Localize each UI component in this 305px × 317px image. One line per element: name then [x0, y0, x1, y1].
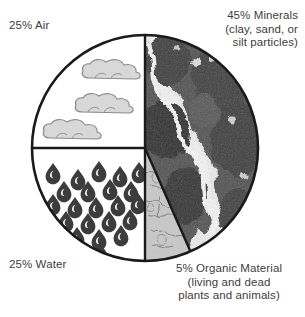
pie-slice-water [30, 148, 148, 268]
label-organic: 5% Organic Material (living and dead pla… [155, 262, 303, 303]
soil-composition-figure: 25% Air 45% Minerals (clay, sand, or sil… [0, 0, 305, 317]
label-water: 25% Water [9, 258, 66, 272]
label-minerals: 45% Minerals (clay, sand, or silt partic… [225, 9, 298, 50]
label-air: 25% Air [9, 19, 49, 33]
